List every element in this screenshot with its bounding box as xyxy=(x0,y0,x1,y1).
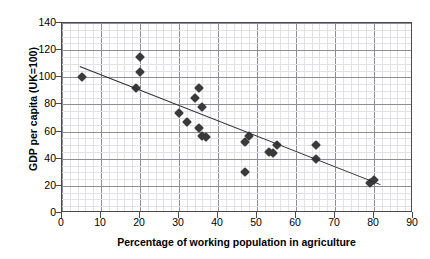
gridline-x-minor xyxy=(132,23,133,211)
gridline-x-minor xyxy=(148,23,149,211)
x-tick-mark xyxy=(217,212,218,218)
gridline-x-minor xyxy=(78,23,79,211)
gridline-x-minor xyxy=(390,23,391,211)
gridline-x-minor xyxy=(241,23,242,211)
gridline-x-minor xyxy=(280,23,281,211)
gridline-x-minor xyxy=(319,23,320,211)
scatter-chart: GDP per capita (UK=100) Percentage of wo… xyxy=(0,0,430,259)
plot-area xyxy=(61,22,412,212)
gridline-y-major xyxy=(62,186,411,187)
x-tick-label: 30 xyxy=(158,217,198,228)
gridline-y-minor xyxy=(62,91,411,92)
x-tick-mark xyxy=(412,212,413,218)
x-tick-label: 50 xyxy=(236,217,276,228)
x-tick-label: 90 xyxy=(392,217,430,228)
gridline-x-minor xyxy=(109,23,110,211)
gridline-x-major xyxy=(296,23,297,211)
gridline-x-minor xyxy=(171,23,172,211)
x-tick-mark xyxy=(373,212,374,218)
gridline-y-minor xyxy=(62,193,411,194)
data-point xyxy=(135,52,145,62)
x-axis-title: Percentage of working population in agri… xyxy=(61,236,412,248)
gridline-x-major xyxy=(140,23,141,211)
y-tick-label: 0 xyxy=(12,207,56,218)
gridline-y-major xyxy=(62,50,411,51)
x-tick-mark xyxy=(334,212,335,218)
gridline-x-minor xyxy=(249,23,250,211)
x-tick-label: 70 xyxy=(314,217,354,228)
gridline-x-minor xyxy=(288,23,289,211)
gridline-x-minor xyxy=(304,23,305,211)
gridline-x-minor xyxy=(265,23,266,211)
data-point xyxy=(135,67,145,77)
gridline-y-minor xyxy=(62,138,411,139)
gridline-y-major xyxy=(62,132,411,133)
gridline-x-major xyxy=(218,23,219,211)
gridline-x-minor xyxy=(117,23,118,211)
gridline-x-minor xyxy=(327,23,328,211)
gridline-x-minor xyxy=(226,23,227,211)
x-tick-label: 20 xyxy=(119,217,159,228)
gridline-x-minor xyxy=(124,23,125,211)
gridline-x-minor xyxy=(397,23,398,211)
gridline-x-minor xyxy=(93,23,94,211)
gridline-x-major xyxy=(62,23,63,211)
gridline-y-minor xyxy=(62,57,411,58)
gridline-x-minor xyxy=(85,23,86,211)
gridline-x-minor xyxy=(195,23,196,211)
gridline-x-minor xyxy=(70,23,71,211)
gridline-y-major xyxy=(62,23,411,24)
x-tick-mark xyxy=(61,212,62,218)
gridline-y-minor xyxy=(62,98,411,99)
gridline-y-minor xyxy=(62,179,411,180)
x-tick-mark xyxy=(178,212,179,218)
gridline-y-minor xyxy=(62,166,411,167)
x-tick-mark xyxy=(139,212,140,218)
gridline-y-minor xyxy=(62,37,411,38)
x-tick-label: 60 xyxy=(275,217,315,228)
gridline-x-minor xyxy=(273,23,274,211)
gridline-y-minor xyxy=(62,84,411,85)
gridline-y-minor xyxy=(62,118,411,119)
gridline-y-minor xyxy=(62,145,411,146)
y-tick-label: 20 xyxy=(12,180,56,191)
gridline-x-minor xyxy=(202,23,203,211)
gridline-y-major xyxy=(62,159,411,160)
x-tick-mark xyxy=(100,212,101,218)
gridline-y-minor xyxy=(62,111,411,112)
gridline-x-major xyxy=(101,23,102,211)
data-point xyxy=(190,93,200,103)
gridline-x-major xyxy=(257,23,258,211)
gridline-y-major xyxy=(62,77,411,78)
gridline-y-minor xyxy=(62,152,411,153)
y-tick-label: 120 xyxy=(12,44,56,55)
gridline-x-minor xyxy=(351,23,352,211)
gridline-y-minor xyxy=(62,199,411,200)
y-tick-label: 100 xyxy=(12,71,56,82)
gridline-x-minor xyxy=(156,23,157,211)
y-tick-label: 140 xyxy=(12,17,56,28)
gridline-y-major xyxy=(62,104,411,105)
gridline-y-minor xyxy=(62,71,411,72)
gridline-x-minor xyxy=(163,23,164,211)
x-tick-label: 40 xyxy=(197,217,237,228)
gridline-y-minor xyxy=(62,30,411,31)
gridline-y-minor xyxy=(62,43,411,44)
y-tick-label: 40 xyxy=(12,153,56,164)
x-tick-label: 10 xyxy=(80,217,120,228)
y-tick-label: 60 xyxy=(12,126,56,137)
gridline-x-minor xyxy=(343,23,344,211)
gridline-x-minor xyxy=(312,23,313,211)
gridline-x-minor xyxy=(405,23,406,211)
x-tick-label: 0 xyxy=(41,217,81,228)
gridline-x-minor xyxy=(234,23,235,211)
gridline-y-minor xyxy=(62,206,411,207)
x-tick-mark xyxy=(256,212,257,218)
x-tick-label: 80 xyxy=(353,217,393,228)
y-tick-label: 80 xyxy=(12,98,56,109)
data-point xyxy=(174,108,184,118)
gridline-x-major xyxy=(335,23,336,211)
y-axis-title: GDP per capita (UK=100) xyxy=(27,14,39,204)
gridline-x-minor xyxy=(382,23,383,211)
gridline-x-minor xyxy=(358,23,359,211)
